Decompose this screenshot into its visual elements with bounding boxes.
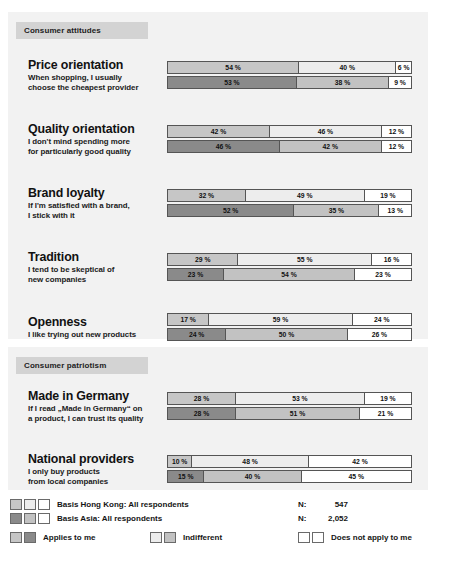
question-label-openness: Openness I like trying out new products bbox=[28, 315, 168, 340]
question-subtitle: If I read „Made in Germany“ on a product… bbox=[28, 404, 168, 424]
panel-consumer-attitudes: Consumer attitudes Price orientation Whe… bbox=[8, 12, 428, 339]
question-subtitle-line1: I only buy products bbox=[28, 467, 100, 476]
legend-n-asia: N:2,052 bbox=[298, 514, 348, 523]
bar-asia: 28 % 51 % 21 % bbox=[167, 407, 412, 420]
segment-applies: 52 % bbox=[168, 205, 294, 216]
legend-n-value-hk: 547 bbox=[314, 500, 348, 509]
swatch-asia-applies bbox=[10, 513, 22, 524]
segment-not-apply: 13 % bbox=[379, 205, 411, 216]
legend-n-label: N: bbox=[298, 514, 314, 523]
bar-asia: 24 % 50 % 26 % bbox=[167, 328, 412, 341]
question-subtitle-line1: I tend to be skeptical of bbox=[28, 265, 114, 274]
section-band-label: Consumer attitudes bbox=[24, 26, 101, 35]
bar-group-made-in-germany: 28 % 53 % 19 % 28 % 51 % 21 % bbox=[167, 392, 412, 422]
swatch-indifferent-asia bbox=[164, 532, 176, 543]
swatch-hk-not-apply bbox=[38, 499, 50, 510]
segment-indifferent: 54 % bbox=[224, 269, 355, 280]
question-subtitle: I only buy products from local companies bbox=[28, 467, 168, 487]
swatch-applies-asia bbox=[24, 532, 36, 543]
question-label-brand-loyalty: Brand loyalty If I'm satisfied with a br… bbox=[28, 186, 168, 221]
segment-not-apply: 45 % bbox=[302, 471, 411, 482]
legend-basis-asia-label: Basis Asia: All respondents bbox=[57, 514, 162, 523]
segment-not-apply: 19 % bbox=[365, 190, 411, 201]
segment-applies: 46 % bbox=[168, 141, 280, 152]
question-label-price-orientation: Price orientation When shopping, I usual… bbox=[28, 58, 168, 93]
legend-key-not-apply: Does not apply to me bbox=[298, 532, 412, 543]
legend-n-value-asia: 2,052 bbox=[314, 514, 348, 523]
question-title: Made in Germany bbox=[28, 389, 168, 403]
segment-indifferent: 48 % bbox=[192, 456, 309, 467]
legend: Basis Hong Kong: All respondents Basis A… bbox=[0, 497, 455, 557]
segment-not-apply: 24 % bbox=[353, 314, 411, 325]
segment-indifferent: 38 % bbox=[297, 77, 389, 88]
segment-applies: 54 % bbox=[168, 62, 299, 73]
swatch-not-apply-hk bbox=[298, 532, 310, 543]
question-title: Brand loyalty bbox=[28, 186, 168, 200]
bar-asia: 46 % 42 % 12 % bbox=[167, 140, 412, 153]
segment-applies: 32 % bbox=[168, 190, 246, 201]
segment-applies: 42 % bbox=[168, 126, 270, 137]
swatch-applies-hk bbox=[10, 532, 22, 543]
segment-not-apply: 26 % bbox=[348, 329, 411, 340]
bar-hong-kong: 42 % 46 % 12 % bbox=[167, 125, 412, 138]
segment-not-apply: 23 % bbox=[355, 269, 411, 280]
segment-applies: 28 % bbox=[168, 408, 236, 419]
bar-asia: 53 % 38 % 9 % bbox=[167, 76, 412, 89]
segment-applies: 23 % bbox=[168, 269, 224, 280]
question-title: Price orientation bbox=[28, 58, 168, 72]
question-subtitle-line2: for particularly good quality bbox=[28, 147, 131, 156]
segment-not-apply: 12 % bbox=[382, 141, 411, 152]
swatch-asia-not-apply bbox=[38, 513, 50, 524]
question-subtitle-line2: from local companies bbox=[28, 477, 108, 486]
question-subtitle-line2: a product, I can trust its quality bbox=[28, 414, 143, 423]
bar-group-openness: 17 % 59 % 24 % 24 % 50 % 26 % bbox=[167, 313, 412, 343]
question-label-made-in-germany: Made in Germany If I read „Made in Germa… bbox=[28, 389, 168, 424]
segment-not-apply: 21 % bbox=[360, 408, 411, 419]
question-label-national-providers: National providers I only buy products f… bbox=[28, 452, 168, 487]
question-subtitle-line1: If I'm satisfied with a brand, bbox=[28, 201, 130, 210]
question-title: Quality orientation bbox=[28, 122, 168, 136]
segment-applies: 29 % bbox=[168, 254, 238, 265]
question-title: Openness bbox=[28, 315, 168, 329]
segment-indifferent: 51 % bbox=[236, 408, 360, 419]
question-subtitle-line1: If I read „Made in Germany“ on bbox=[28, 404, 142, 413]
segment-indifferent: 49 % bbox=[246, 190, 365, 201]
segment-applies: 10 % bbox=[168, 456, 192, 467]
question-subtitle-line1: When shopping, I usually bbox=[28, 73, 122, 82]
question-title: National providers bbox=[28, 452, 168, 466]
legend-n-hong-kong: N:547 bbox=[298, 500, 348, 509]
segment-not-apply: 12 % bbox=[382, 126, 411, 137]
swatch-not-apply-asia bbox=[312, 532, 324, 543]
segment-indifferent: 42 % bbox=[280, 141, 382, 152]
legend-indifferent-label: Indifferent bbox=[183, 533, 222, 542]
question-subtitle: When shopping, I usually choose the chea… bbox=[28, 73, 168, 93]
segment-applies: 53 % bbox=[168, 77, 297, 88]
segment-indifferent: 55 % bbox=[238, 254, 372, 265]
swatch-hk-indifferent bbox=[24, 499, 36, 510]
question-subtitle-line2: choose the cheapest provider bbox=[28, 83, 138, 92]
swatch-asia-indifferent bbox=[24, 513, 36, 524]
section-band-label: Consumer patriotism bbox=[24, 361, 106, 370]
question-label-quality-orientation: Quality orientation I don't mind spendin… bbox=[28, 122, 168, 157]
bar-group-quality-orientation: 42 % 46 % 12 % 46 % 42 % 12 % bbox=[167, 125, 412, 155]
segment-applies: 28 % bbox=[168, 393, 236, 404]
segment-indifferent: 40 % bbox=[204, 471, 301, 482]
bar-group-national-providers: 10 % 48 % 42 % 15 % 40 % 45 % bbox=[167, 455, 412, 485]
segment-indifferent: 59 % bbox=[209, 314, 352, 325]
segment-indifferent: 53 % bbox=[236, 393, 365, 404]
bar-group-brand-loyalty: 32 % 49 % 19 % 52 % 35 % 13 % bbox=[167, 189, 412, 219]
question-subtitle-line1: I like trying out new products bbox=[28, 330, 136, 339]
question-subtitle-line2: new companies bbox=[28, 275, 86, 284]
segment-applies: 24 % bbox=[168, 329, 226, 340]
bar-hong-kong: 17 % 59 % 24 % bbox=[167, 313, 412, 326]
section-band-attitudes: Consumer attitudes bbox=[16, 22, 148, 39]
segment-indifferent: 50 % bbox=[226, 329, 348, 340]
section-band-patriotism: Consumer patriotism bbox=[16, 357, 148, 374]
bar-hong-kong: 29 % 55 % 16 % bbox=[167, 253, 412, 266]
segment-not-apply: 6 % bbox=[396, 62, 411, 73]
legend-basis-asia: Basis Asia: All respondents bbox=[10, 513, 162, 524]
segment-indifferent: 35 % bbox=[294, 205, 379, 216]
bar-hong-kong: 10 % 48 % 42 % bbox=[167, 455, 412, 468]
question-subtitle-line1: I don't mind spending more bbox=[28, 137, 130, 146]
segment-applies: 17 % bbox=[168, 314, 209, 325]
